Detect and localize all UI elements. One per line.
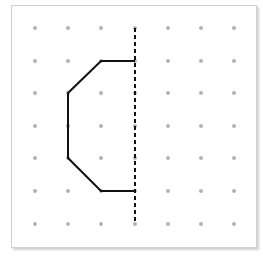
grid-dot <box>166 124 170 128</box>
grid-dot <box>166 222 170 226</box>
grid-dot <box>33 124 37 128</box>
grid-dot <box>33 189 37 193</box>
grid-dot <box>199 189 203 193</box>
grid-dot <box>33 156 37 160</box>
grid-dot <box>199 124 203 128</box>
grid-dot <box>66 222 70 226</box>
grid-dot <box>33 26 37 30</box>
grid-dot <box>232 26 236 30</box>
grid-dot <box>99 124 103 128</box>
grid-dot <box>232 156 236 160</box>
grid-dot <box>33 222 37 226</box>
grid-dot <box>199 91 203 95</box>
symmetry-diagram <box>0 0 263 260</box>
grid-dot <box>199 222 203 226</box>
grid-dot <box>232 189 236 193</box>
grid-dot <box>166 156 170 160</box>
grid-dot <box>232 222 236 226</box>
grid-dot <box>199 26 203 30</box>
grid-dot <box>33 59 37 63</box>
grid-dot <box>199 156 203 160</box>
grid-dot <box>33 91 37 95</box>
grid-dot <box>99 91 103 95</box>
grid-dot <box>99 26 103 30</box>
grid-dot <box>66 26 70 30</box>
grid-dot <box>166 26 170 30</box>
grid-dot <box>166 91 170 95</box>
grid-dot <box>166 189 170 193</box>
grid-dot <box>199 59 203 63</box>
grid-dot <box>166 59 170 63</box>
grid-dot <box>99 156 103 160</box>
grid-dot <box>232 59 236 63</box>
grid-dot <box>66 189 70 193</box>
grid-dot <box>232 124 236 128</box>
grid-dot <box>66 59 70 63</box>
grid-dot <box>99 222 103 226</box>
diagram-stage <box>0 0 263 260</box>
grid-dot <box>232 91 236 95</box>
